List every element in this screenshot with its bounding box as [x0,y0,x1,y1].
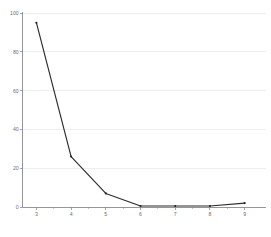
y-tick-label-100: 100 [10,10,19,16]
x-tick-label-3: 3 [35,211,38,217]
x-tick-label-4: 4 [70,211,73,217]
data-point-7 [174,205,176,207]
y-tick-label-40: 40 [13,126,19,132]
x-tick-label-8: 8 [209,211,212,217]
data-point-5 [105,192,107,194]
y-tick-label-20: 20 [13,165,19,171]
chart-container: 020406080100 3456789 [0,0,271,237]
x-tick-label-9: 9 [243,211,246,217]
y-tick-label-80: 80 [13,49,19,55]
data-point-8 [209,205,211,207]
x-tick-label-5: 5 [104,211,107,217]
data-point-3 [35,22,37,24]
chart-background [0,0,271,237]
y-tick-label-60: 60 [13,88,19,94]
x-tick-label-7: 7 [174,211,177,217]
data-point-4 [70,156,72,158]
data-point-9 [244,202,246,204]
x-tick-label-6: 6 [139,211,142,217]
data-point-6 [139,205,141,207]
y-tick-label-0: 0 [16,204,19,210]
line-chart: 020406080100 3456789 [0,0,271,237]
